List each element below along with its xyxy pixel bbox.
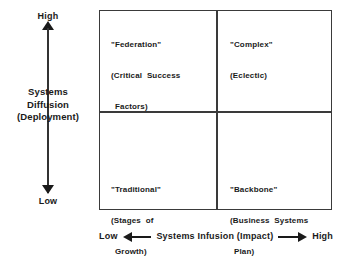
quadrant-traditional-subtitle-line2: Growth) — [111, 247, 161, 257]
quadrant-complex-text: "Complex" (Eclectic) — [230, 19, 273, 102]
x-axis-left-arrow-icon — [123, 231, 152, 241]
x-axis-title: Systems Infusion (Impact) — [156, 231, 273, 241]
quadrant-federation[interactable]: "Federation" (Critical Success Factors) — [100, 11, 216, 111]
quadrant-traditional-title: "Traditional" — [111, 185, 161, 195]
quadrant-matrix: "Federation" (Critical Success Factors) … — [99, 10, 332, 210]
quadrant-complex-title: "Complex" — [230, 40, 273, 50]
quadrant-backbone-subtitle-line2: Plan) — [230, 247, 308, 257]
quadrant-traditional[interactable]: "Traditional" (Stages of Growth) — [100, 112, 216, 212]
quadrant-backbone-title: "Backbone" — [230, 185, 308, 195]
y-axis-title-line3: (Deployment) — [0, 111, 96, 124]
quadrant-complex-subtitle-line1: (Eclectic) — [230, 71, 273, 81]
quadrant-federation-title: "Federation" — [111, 40, 180, 50]
y-axis-title-line1: Systems — [0, 86, 96, 99]
quadrant-backbone-subtitle-line1: (Business Systems — [230, 216, 308, 226]
y-axis-title: Systems Diffusion (Deployment) — [0, 86, 96, 124]
quadrant-complex[interactable]: "Complex" (Eclectic) — [217, 11, 333, 111]
y-axis-down-arrowhead-icon — [42, 185, 54, 194]
quadrant-federation-subtitle-line1: (Critical Success — [111, 71, 180, 81]
quadrant-backbone-text: "Backbone" (Business Systems Plan) — [230, 164, 308, 260]
quadrant-traditional-text: "Traditional" (Stages of Growth) — [111, 164, 161, 260]
quadrant-backbone[interactable]: "Backbone" (Business Systems Plan) — [217, 112, 333, 212]
y-axis: High Systems Diffusion (Deployment) Low — [0, 0, 96, 215]
y-axis-high-label: High — [0, 11, 96, 21]
x-axis-right-arrow-icon — [278, 231, 307, 241]
y-axis-title-line2: Diffusion — [0, 99, 96, 112]
x-axis: Low Systems Infusion (Impact) High — [99, 228, 333, 244]
y-axis-low-label: Low — [0, 196, 96, 206]
x-axis-high-label: High — [312, 231, 333, 241]
x-axis-low-label: Low — [99, 231, 118, 241]
quadrant-traditional-subtitle-line1: (Stages of — [111, 216, 161, 226]
